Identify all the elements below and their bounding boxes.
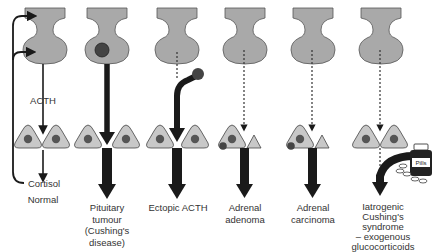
adrenal-adenoma-column (219, 8, 268, 198)
iatrogenic-column: Pills (353, 8, 433, 196)
pill-bottle-icon: Pills (410, 144, 432, 176)
pituitary-tumour-column (75, 8, 140, 199)
caption-adrenal-adenoma: Adrenal adenoma (222, 202, 268, 225)
adrenal-cell-icon (43, 125, 70, 148)
ectopic-acth-column (147, 8, 209, 199)
acth-label: ACTH (28, 95, 58, 107)
svg-text:Pills: Pills (415, 160, 426, 166)
adrenal-carcinoma-column (287, 8, 336, 198)
caption-ectopic-acth: Ectopic ACTH (147, 202, 209, 214)
tumour-icon (95, 43, 109, 57)
caption-adrenal-carcinoma: Adrenal carcinoma (288, 202, 338, 225)
caption-normal: Normal (20, 194, 66, 206)
ectopic-tumour-icon (192, 68, 204, 80)
caption-iatrogenic: Iatrogenic Cushing's syndrome – exogenou… (350, 202, 416, 252)
cortisol-label: Cortisol (22, 178, 66, 190)
adrenal-cell-icon (15, 125, 42, 148)
caption-pituitary-tumour: Pituitary tumour (Cushing's disease) (79, 202, 135, 248)
